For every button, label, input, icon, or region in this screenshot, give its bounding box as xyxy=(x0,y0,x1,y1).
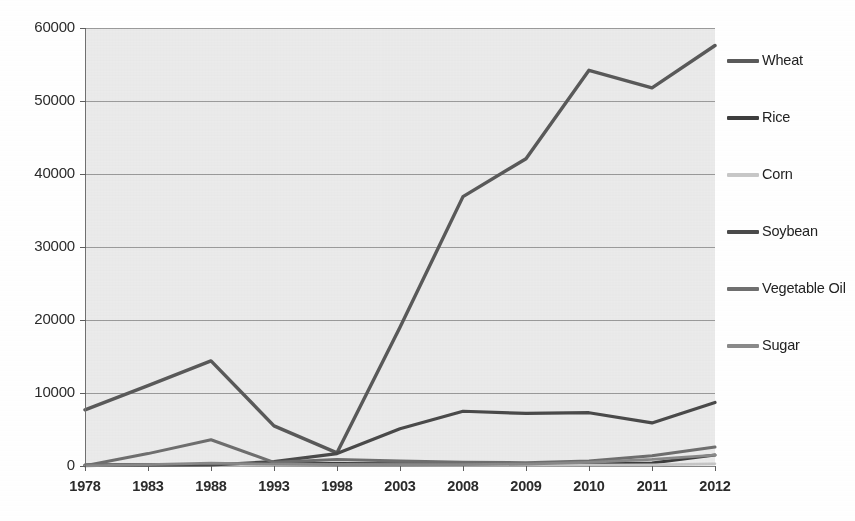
legend-label: Rice xyxy=(762,109,790,126)
legend-swatch-icon xyxy=(727,116,759,120)
x-axis-tick-mark xyxy=(652,466,653,471)
legend-swatch-icon xyxy=(727,287,759,291)
x-axis-tick-mark xyxy=(715,466,716,471)
x-axis-tick-mark xyxy=(274,466,275,471)
x-axis-tick-label: 2011 xyxy=(637,478,668,494)
y-axis-tick-label: 30000 xyxy=(0,237,75,254)
x-axis-tick-mark xyxy=(85,466,86,471)
legend-item-corn[interactable]: Corn xyxy=(727,166,855,183)
legend-swatch-icon xyxy=(727,173,759,177)
legend-label: Wheat xyxy=(762,52,803,69)
legend-label: Corn xyxy=(762,166,793,183)
x-axis-tick-mark xyxy=(337,466,338,471)
y-axis-tick-mark xyxy=(80,28,86,29)
x-axis-tick-label: 1998 xyxy=(321,478,352,494)
y-axis-tick-label: 20000 xyxy=(0,310,75,327)
legend-label: Soybean xyxy=(762,223,818,240)
x-axis-tick-label: 2012 xyxy=(699,478,730,494)
series-line-soybean xyxy=(85,402,715,465)
x-axis-tick-mark xyxy=(211,466,212,471)
x-axis-tick-label: 1988 xyxy=(195,478,226,494)
x-axis-tick-label: 1993 xyxy=(258,478,289,494)
legend-label: Vegetable Oil xyxy=(762,280,846,297)
legend-item-soybean[interactable]: Soybean xyxy=(727,223,855,240)
y-axis-tick-label: 60000 xyxy=(0,18,75,35)
x-axis-tick-mark xyxy=(463,466,464,471)
legend-swatch-icon xyxy=(727,230,759,234)
y-axis-tick-label: 10000 xyxy=(0,383,75,400)
legend-item-sugar[interactable]: Sugar xyxy=(727,337,855,354)
x-axis-tick-label: 2008 xyxy=(447,478,478,494)
x-axis-tick-label: 2010 xyxy=(573,478,604,494)
y-axis-tick-mark xyxy=(80,247,86,248)
x-axis-tick-label: 2009 xyxy=(510,478,541,494)
legend-swatch-icon xyxy=(727,59,759,63)
series-lines xyxy=(85,28,715,466)
legend-item-rice[interactable]: Rice xyxy=(727,109,855,126)
legend-swatch-icon xyxy=(727,344,759,348)
legend-item-vegetable-oil[interactable]: Vegetable Oil xyxy=(727,280,855,297)
y-axis-tick-mark xyxy=(80,393,86,394)
y-axis-tick-mark xyxy=(80,101,86,102)
y-axis-tick-label: 0 xyxy=(0,456,75,473)
legend-label: Sugar xyxy=(762,337,800,354)
x-axis-tick-mark xyxy=(589,466,590,471)
legend-item-wheat[interactable]: Wheat xyxy=(727,52,855,69)
line-chart: 0100002000030000400005000060000 19781983… xyxy=(0,0,855,521)
y-axis-tick-label: 50000 xyxy=(0,91,75,108)
x-axis-tick-label: 2003 xyxy=(384,478,415,494)
y-axis-tick-mark xyxy=(80,174,86,175)
y-axis-tick-mark xyxy=(80,320,86,321)
x-axis-tick-label: 1983 xyxy=(132,478,163,494)
y-axis-tick-label: 40000 xyxy=(0,164,75,181)
plot-area xyxy=(85,28,715,466)
series-line-wheat xyxy=(85,46,715,453)
x-axis-tick-mark xyxy=(526,466,527,471)
x-axis-tick-mark xyxy=(400,466,401,471)
x-axis-tick-label: 1978 xyxy=(69,478,100,494)
x-axis-tick-mark xyxy=(148,466,149,471)
